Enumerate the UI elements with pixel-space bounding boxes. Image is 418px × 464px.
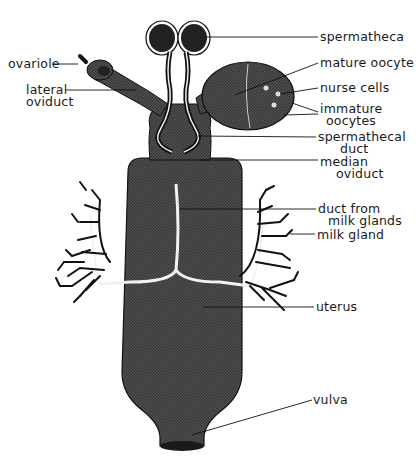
- nurse-cell: [276, 92, 281, 97]
- nurse-cell: [272, 103, 277, 108]
- nurse-cell: [264, 86, 269, 91]
- ovary-egg-shape: [202, 62, 294, 130]
- vulva-shape: [160, 441, 204, 451]
- ovariole-tip: [80, 56, 86, 62]
- label-ovariole: ovariole: [8, 58, 60, 70]
- label-milk-gland: milk gland: [317, 229, 384, 241]
- spermatheca-left: [149, 24, 175, 52]
- milk-gland-right: [240, 186, 298, 310]
- label-spermathecal-duct: spermathecal duct: [318, 131, 406, 155]
- label-spermatheca: spermatheca: [320, 31, 404, 43]
- label-uterus: uterus: [316, 301, 357, 313]
- label-median-oviduct-line2: oviduct: [336, 168, 384, 180]
- uterus-shape: [122, 158, 242, 446]
- label-mature-oocyte: mature oocyte: [320, 57, 414, 69]
- label-duct-milk-line2: milk glands: [328, 215, 402, 227]
- label-duct-from-milk-glands: duct from milk glands: [318, 203, 402, 227]
- label-lateral-oviduct: lateral oviduct: [26, 84, 74, 108]
- ovariole-oocyte: [98, 66, 110, 76]
- spermatheca-right: [181, 24, 207, 52]
- label-vulva: vulva: [313, 394, 348, 406]
- label-median-oviduct: median oviduct: [320, 156, 384, 180]
- label-lateral-oviduct-line2: oviduct: [26, 96, 74, 108]
- label-immature-oocytes: immature oocytes: [320, 103, 382, 127]
- label-nurse-cells: nurse cells: [320, 82, 389, 94]
- label-immature-oocytes-line2: oocytes: [326, 115, 382, 127]
